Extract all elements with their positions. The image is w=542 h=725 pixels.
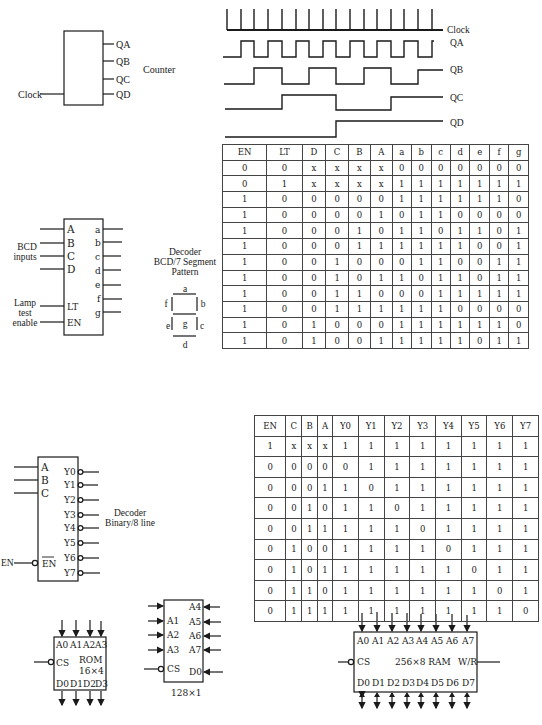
table-cell: 0	[302, 192, 326, 208]
mem128-pin-a7: A7	[188, 645, 201, 655]
table-cell: 0	[431, 160, 450, 176]
mem128-pin-a5: A5	[188, 617, 201, 627]
mem128-pin-d0: D0	[189, 667, 202, 677]
bcd-inputs-label-1: BCD	[17, 242, 37, 252]
table-cell: 0	[326, 333, 349, 349]
table-cell: 0	[326, 192, 349, 208]
col-header-y1: Y1	[358, 416, 384, 437]
table-cell: 0	[392, 207, 411, 223]
table-cell: 1	[470, 223, 489, 239]
table-cell: 0	[509, 160, 529, 176]
table-cell: 1	[302, 498, 318, 519]
table-cell: 0	[302, 301, 326, 317]
table-cell: x	[302, 160, 326, 176]
table-cell: 0	[487, 580, 513, 601]
table-cell: 0	[302, 239, 326, 255]
table-cell: 1	[461, 457, 487, 478]
table-cell: 1	[358, 580, 384, 601]
bcd-out-b: b	[95, 238, 101, 248]
table-cell: 1	[513, 477, 539, 498]
table-cell: 1	[411, 239, 431, 255]
table-cell: 1	[513, 580, 539, 601]
table-cell: 1	[410, 539, 436, 560]
table-cell: 1	[326, 254, 349, 270]
ram-256x8-block: A0 A1 A2 A3 A4 A5 A6 A7 CS 256×8 RAM W/R…	[338, 612, 500, 708]
table-cell: 1	[489, 270, 508, 286]
table-cell: 1	[509, 239, 529, 255]
table-cell: 1	[436, 518, 462, 539]
table-cell: 1	[513, 539, 539, 560]
table-cell: 0	[326, 317, 349, 333]
table-cell: 1	[487, 601, 513, 622]
col-header-y7: Y7	[513, 416, 539, 437]
table-cell: 0	[223, 176, 267, 192]
table-cell: 1	[431, 207, 450, 223]
table-cell: 1	[317, 560, 332, 581]
table-cell: 1	[349, 239, 371, 255]
binary-out-y3: Y3	[63, 510, 76, 520]
table-cell: 1	[489, 254, 508, 270]
bcd-pin-lt: LT	[67, 302, 78, 312]
table-cell: 1	[450, 333, 470, 349]
ram-pin-a6: A6	[445, 636, 458, 646]
table-cell: 1	[431, 333, 450, 349]
table-cell: 0	[384, 498, 410, 519]
table-row: 1000010110000	[223, 207, 529, 223]
col-header-seg-e: e	[470, 145, 489, 161]
table-row: 1010001111110	[223, 317, 529, 333]
table-cell: 0	[370, 286, 392, 302]
table-cell: 1	[370, 270, 392, 286]
table-cell: 1	[286, 601, 302, 622]
binary-out-y7: Y7	[63, 568, 76, 578]
table-cell: 1	[431, 239, 450, 255]
rom-pin-d1: D1	[70, 679, 83, 689]
table-cell: 0	[489, 160, 508, 176]
ram-pin-wr: W/R	[458, 657, 477, 667]
col-header-y2: Y2	[384, 416, 410, 437]
table-cell: 0	[326, 223, 349, 239]
table-cell: 0	[470, 207, 489, 223]
table-cell: 1	[489, 176, 508, 192]
table-cell: 0	[489, 301, 508, 317]
col-header-c: C	[286, 416, 302, 437]
rom-pin-d0: D0	[56, 679, 69, 689]
binary-pin-b: B	[41, 474, 49, 486]
table-cell: 1	[223, 239, 267, 255]
table-row: 000001111111	[255, 457, 539, 478]
table-cell: 1	[358, 601, 384, 622]
table-cell: 1	[411, 223, 431, 239]
qd-waveform	[225, 121, 443, 137]
table-cell: 1	[223, 317, 267, 333]
ram-pin-d6: D6	[446, 678, 459, 688]
timing-label-qa: QA	[450, 38, 464, 48]
table-cell: 0	[286, 457, 302, 478]
bcd-out-a: a	[95, 225, 101, 235]
qb-waveform	[224, 68, 443, 84]
table-cell: 1	[436, 560, 462, 581]
rom-cs-bubble	[48, 659, 53, 664]
table-cell: 0	[267, 270, 302, 286]
table-cell: 1	[411, 207, 431, 223]
table-cell: 0	[302, 270, 326, 286]
ram-pin-a2: A2	[386, 636, 399, 646]
binary-pin-c: C	[41, 487, 49, 499]
table-cell: 1	[513, 457, 539, 478]
col-header-seg-g: g	[509, 145, 529, 161]
binary-decoder-block: A B C EN EN Y0 Y1 Y2 Y3 Y4 Y5 Y6 Y7 Deco…	[1, 457, 155, 581]
table-cell: 0	[333, 457, 359, 478]
table-cell: 1	[223, 254, 267, 270]
table-cell: 0	[255, 477, 286, 498]
lamp-label-3: enable	[13, 318, 38, 328]
bcd-out-c: c	[95, 252, 100, 262]
table-cell: 1	[431, 317, 450, 333]
table-cell: 1	[370, 239, 392, 255]
seven-segment-pattern: Decoder BCD/7 Segment Pattern a f b g e …	[154, 247, 217, 350]
table-cell: 0	[470, 239, 489, 255]
table-cell: 1	[384, 477, 410, 498]
table-cell: 0	[267, 207, 302, 223]
table-row: 011011111101	[255, 580, 539, 601]
table-cell: 1	[410, 601, 436, 622]
seven-segment-truth-table: EN LT D C B A a b c d e f g 00xxxx000000…	[222, 144, 529, 349]
table-cell: x	[326, 160, 349, 176]
mem128-cs-bubble	[158, 666, 163, 671]
